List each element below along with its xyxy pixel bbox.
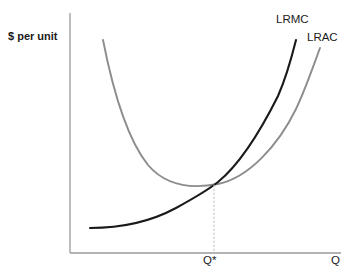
q-star-axis-label: Q* [203,255,216,267]
lrac-curve-label: LRAC [307,32,338,44]
cost-curve-figure: $ per unit LRMC LRAC Q* Q [0,0,360,278]
lrac-curve [103,40,320,186]
y-axis-title: $ per unit [8,31,58,42]
lrmc-curve-label: LRMC [276,14,309,26]
x-axis-title: Q [331,255,340,267]
lrmc-curve [90,40,296,228]
